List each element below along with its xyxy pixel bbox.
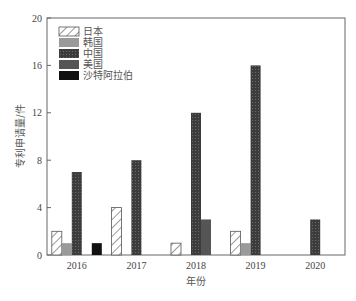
legend-label: 沙特阿拉伯: [83, 69, 133, 81]
x-tick-label: 2020: [305, 260, 325, 271]
x-tick-label: 2018: [186, 260, 206, 271]
y-tick-label: 20: [32, 13, 42, 24]
legend-swatch: [59, 49, 79, 58]
y-axis-title: 专利申请量/件: [14, 104, 26, 167]
bar-中国: [191, 113, 201, 255]
legend-swatch: [59, 60, 79, 69]
y-tick-label: 4: [37, 202, 42, 213]
bar-日本: [52, 231, 62, 255]
legend-label: 中国: [83, 47, 103, 59]
y-tick-label: 8: [37, 155, 42, 166]
bar-中国: [310, 219, 320, 255]
bars: [52, 65, 320, 255]
bar-美国: [201, 219, 211, 255]
legend-label: 美国: [83, 58, 103, 70]
bar-中国: [72, 172, 82, 255]
y-tick-label: 16: [32, 60, 42, 71]
bar-chart: 048121620 20162017201820192020 日本韩国中国美国沙…: [0, 0, 356, 301]
bar-韩国: [241, 243, 251, 255]
bar-韩国: [62, 243, 72, 255]
y-axis: 048121620: [32, 13, 51, 261]
bar-日本: [231, 231, 241, 255]
legend-swatch: [59, 71, 79, 80]
x-axis-title: 年份: [186, 275, 206, 287]
bar-中国: [131, 160, 141, 255]
bar-日本: [171, 243, 181, 255]
x-tick-label: 2017: [126, 260, 146, 271]
y-tick-label: 12: [32, 107, 42, 118]
legend-swatch: [59, 38, 79, 47]
bar-中国: [251, 65, 261, 255]
bar-沙特阿拉伯: [92, 243, 102, 255]
legend: 日本韩国中国美国沙特阿拉伯: [59, 25, 133, 81]
legend-label: 韩国: [83, 36, 103, 48]
y-tick-label: 0: [37, 250, 42, 261]
bar-日本: [111, 208, 121, 255]
x-tick-label: 2016: [67, 260, 87, 271]
x-tick-label: 2019: [246, 260, 266, 271]
legend-swatch: [59, 27, 79, 36]
legend-label: 日本: [83, 25, 103, 37]
